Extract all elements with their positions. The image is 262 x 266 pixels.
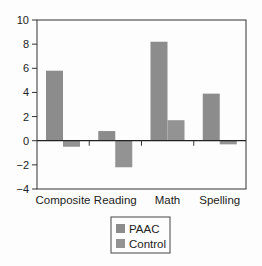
legend-swatch-control xyxy=(116,239,125,248)
y-tick-label: 2 xyxy=(23,111,29,123)
bar-paac-spelling xyxy=(203,94,220,141)
x-tick-label: Reading xyxy=(94,194,137,206)
y-tick-label: 0 xyxy=(23,135,29,147)
y-tick-label: 8 xyxy=(23,38,29,50)
bar-control-composite xyxy=(63,141,80,147)
y-tick-label: 10 xyxy=(17,14,29,26)
bar-paac-math xyxy=(151,42,168,141)
bar-chart: −4−20246810 CompositeReadingMathSpelling… xyxy=(0,0,262,266)
bar-paac-composite xyxy=(46,71,63,141)
x-tick-label: Composite xyxy=(36,194,91,206)
legend-swatch-paac xyxy=(116,224,125,233)
y-tick-label: 4 xyxy=(23,86,29,98)
y-tick-label: −4 xyxy=(16,183,29,195)
x-tick-label: Math xyxy=(155,194,181,206)
y-tick-label: 6 xyxy=(23,62,29,74)
bar-paac-reading xyxy=(98,131,115,141)
bar-control-reading xyxy=(115,141,132,168)
x-tick-label: Spelling xyxy=(199,194,240,206)
legend-label-control: Control xyxy=(129,238,166,250)
y-tick-label: −2 xyxy=(16,159,29,171)
bar-control-math xyxy=(168,120,185,141)
legend: PAACControl xyxy=(111,217,170,253)
legend-label-paac: PAAC xyxy=(129,223,159,235)
